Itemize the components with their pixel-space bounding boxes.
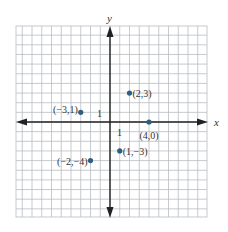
y-unit-tick-label: 1 xyxy=(97,108,102,119)
point-label: (1,−3) xyxy=(123,146,148,158)
point-marker-icon xyxy=(88,158,93,163)
point-marker-icon xyxy=(127,90,132,95)
x-axis-right-arrow-icon xyxy=(197,119,208,126)
point-marker-icon xyxy=(146,119,151,124)
point-marker-icon xyxy=(78,110,83,115)
data-point: (−3,1) xyxy=(53,104,83,116)
x-axis-label: x xyxy=(213,116,219,128)
data-point: (4,0) xyxy=(139,119,158,142)
y-axis-down-arrow-icon xyxy=(107,207,114,218)
y-axis-up-arrow-icon xyxy=(107,26,114,37)
x-unit-tick-label: 1 xyxy=(117,127,122,138)
point-label: (4,0) xyxy=(139,130,158,142)
x-axis-left-arrow-icon xyxy=(16,119,27,126)
point-label: (−3,1) xyxy=(53,104,78,116)
point-marker-icon xyxy=(117,148,122,153)
data-point: (1,−3) xyxy=(117,146,147,158)
data-point: (2,3) xyxy=(127,88,152,100)
data-points: (2,3)(−3,1)(4,0)(1,−3)(−2,−4) xyxy=(53,88,159,168)
point-label: (2,3) xyxy=(133,88,152,100)
y-axis-label: y xyxy=(106,12,112,24)
data-point: (−2,−4) xyxy=(57,156,93,168)
x-axis xyxy=(16,119,208,126)
point-label: (−2,−4) xyxy=(57,156,87,168)
coordinate-plane: x y 1 1 (2,3)(−3,1)(4,0)(1,−3)(−2,−4) xyxy=(0,0,228,232)
